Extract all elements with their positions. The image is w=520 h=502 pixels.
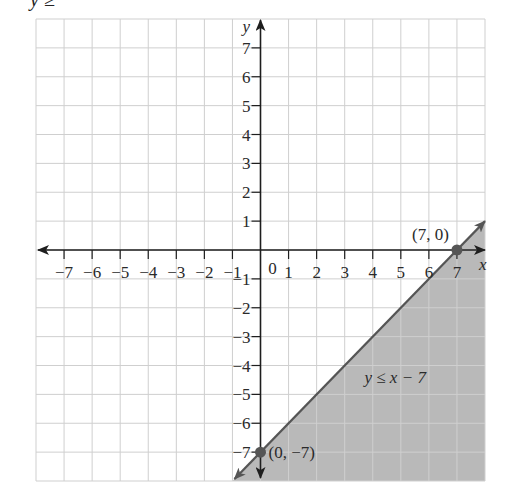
inequality-annotation: y ≤ x − 7 <box>362 368 427 387</box>
point-marker <box>451 245 462 256</box>
x-tick-label: 5 <box>397 263 406 282</box>
y-tick-label: −1 <box>232 270 250 289</box>
y-tick-label: 3 <box>242 154 251 173</box>
x-tick-label: 4 <box>369 263 378 282</box>
y-tick-label: 4 <box>242 126 251 145</box>
y-tick-label: 2 <box>242 183 251 202</box>
coordinate-plane: −7−6−5−4−3−2−11234567−7−6−5−4−3−2−112345… <box>0 0 520 502</box>
x-tick-label: 7 <box>453 263 462 282</box>
x-axis-label: x <box>478 255 487 274</box>
y-tick-label: 1 <box>242 212 251 231</box>
point-label: (0, −7) <box>269 443 315 462</box>
y-tick-label: −3 <box>232 328 250 347</box>
y-tick-label: −5 <box>232 385 250 404</box>
y-tick-label: 7 <box>242 39 251 58</box>
x-tick-label: −7 <box>55 263 74 282</box>
y-tick-label: 5 <box>242 97 251 116</box>
x-tick-label: 1 <box>284 263 293 282</box>
x-tick-label: −3 <box>167 263 185 282</box>
x-tick-label: −5 <box>111 263 129 282</box>
y-axis-label: y <box>241 17 251 36</box>
x-tick-label: −6 <box>83 263 101 282</box>
x-tick-label: −4 <box>139 263 158 282</box>
x-tick-label: 2 <box>312 263 321 282</box>
y-tick-label: 6 <box>242 68 251 87</box>
point-marker <box>255 447 266 458</box>
y-tick-label: −2 <box>232 299 250 318</box>
y-tick-label: −7 <box>232 443 251 462</box>
point-label: (7, 0) <box>412 225 449 244</box>
x-tick-label: 3 <box>340 263 349 282</box>
x-tick-label: −2 <box>195 263 213 282</box>
y-tick-label: −4 <box>232 357 251 376</box>
x-tick-label: 6 <box>425 263 434 282</box>
y-tick-label: −6 <box>232 414 250 433</box>
origin-label: 0 <box>268 259 277 278</box>
